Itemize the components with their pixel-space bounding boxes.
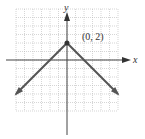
vertex-label: (0, 2)	[82, 31, 104, 43]
graph: x y (0, 2)	[0, 0, 145, 139]
x-axis-arrow-icon	[122, 57, 131, 63]
x-axis-label: x	[132, 54, 138, 65]
y-axis-arrow-icon	[64, 12, 70, 21]
vertex-point	[65, 41, 70, 46]
y-axis-label: y	[63, 2, 69, 13]
